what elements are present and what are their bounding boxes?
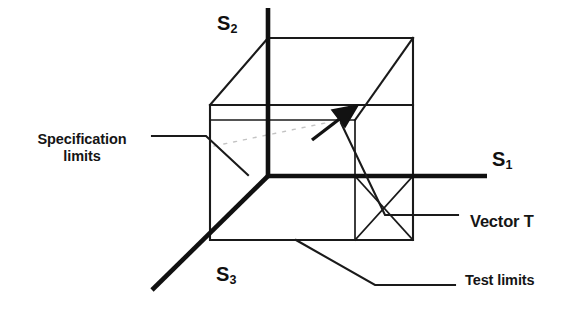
leader-vector-t (341, 123, 458, 215)
axis-label-s1-text: S (492, 148, 505, 170)
axis-label-s2: S2 (217, 12, 237, 35)
outer-cube-edge-topleft (210, 38, 268, 105)
axes-group (152, 8, 487, 290)
axis-label-s3-text: S (216, 263, 229, 285)
vector-t-arrow (312, 105, 358, 140)
axis-label-s1-sub: 1 (506, 158, 513, 172)
vector-t-label: Vector T (470, 212, 534, 231)
axis-label-s3-sub: 3 (230, 273, 237, 287)
hidden-edge-guide (214, 122, 330, 146)
figure-root: Specification limits Vector T Test limit… (0, 0, 588, 316)
inner-cube (210, 120, 413, 240)
axis-label-s3: S3 (216, 263, 236, 286)
specification-limits-label-line1: Specification (14, 131, 150, 148)
outer-cube-edge-topright (355, 38, 413, 120)
specification-limits-label-line2: limits (14, 148, 150, 165)
axis-label-s1: S1 (492, 148, 512, 171)
test-limits-label: Test limits (465, 272, 535, 289)
specification-limits-label: Specification limits (14, 131, 150, 165)
leader-test-limits (296, 240, 455, 285)
axis-label-s2-sub: 2 (231, 22, 238, 36)
axis-label-s2-text: S (217, 12, 230, 34)
hidden-edge-guide-line (214, 122, 330, 146)
